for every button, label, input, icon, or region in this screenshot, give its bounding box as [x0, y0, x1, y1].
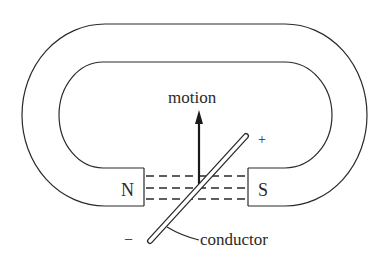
magnet-outer-outline	[22, 24, 367, 206]
magnet-inner-outline	[59, 62, 332, 168]
horseshoe-magnet	[22, 24, 367, 206]
motion-label: motion	[168, 88, 217, 107]
conductor-label: conductor	[200, 230, 268, 249]
north-pole-label: N	[121, 180, 134, 200]
magnet-diagram: N S motion conductor + −	[0, 0, 389, 257]
negative-terminal-label: −	[124, 231, 133, 248]
positive-terminal-label: +	[258, 132, 266, 147]
south-pole-label: S	[258, 180, 268, 200]
conductor-leader-line	[167, 227, 199, 240]
